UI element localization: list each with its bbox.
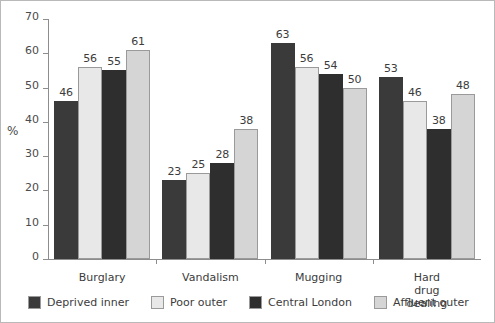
y-axis-tick-label: 70 — [25, 11, 39, 22]
bar-value-label: 23 — [167, 166, 181, 177]
bar-value-label: 53 — [384, 63, 398, 74]
bar[interactable]: 46 — [403, 101, 427, 259]
y-axis-tick-label: 10 — [25, 217, 39, 228]
bar-value-label: 28 — [215, 149, 229, 160]
legend-swatch-icon — [249, 296, 262, 309]
chart-legend: Deprived innerPoor outerCentral LondonAf… — [1, 296, 495, 309]
bar-slot: 38 — [234, 19, 258, 259]
legend-label: Deprived inner — [47, 297, 129, 308]
bar-slot: 48 — [451, 19, 475, 259]
bar[interactable]: 38 — [234, 129, 258, 259]
bar-value-label: 55 — [107, 56, 121, 67]
legend-item[interactable]: Central London — [249, 296, 352, 309]
legend-swatch-icon — [374, 296, 387, 309]
x-axis-group-tick — [265, 259, 266, 264]
legend-swatch-icon — [28, 296, 41, 309]
bar-slot: 23 — [162, 19, 186, 259]
bar-slot: 25 — [186, 19, 210, 259]
y-axis-tick-label: 60 — [25, 45, 39, 56]
bar-slot: 50 — [343, 19, 367, 259]
legend-swatch-icon — [151, 296, 164, 309]
x-axis-group-tick — [156, 259, 157, 264]
bar-slot: 56 — [295, 19, 319, 259]
bar-slot: 53 — [379, 19, 403, 259]
bar-slot: 63 — [271, 19, 295, 259]
bar[interactable]: 38 — [427, 129, 451, 259]
bar-slot: 46 — [54, 19, 78, 259]
bar-value-label: 56 — [83, 53, 97, 64]
bar[interactable]: 28 — [210, 163, 234, 259]
bar-value-label: 61 — [131, 36, 145, 47]
bar-slot: 61 — [126, 19, 150, 259]
bar-slot: 56 — [78, 19, 102, 259]
y-axis-tick-mark — [43, 259, 48, 260]
x-axis-category-label: Burglary — [79, 271, 126, 284]
legend-item[interactable]: Poor outer — [151, 296, 227, 309]
bar-value-label: 46 — [59, 87, 73, 98]
bar[interactable]: 48 — [451, 94, 475, 259]
bar-slot: 38 — [427, 19, 451, 259]
x-axis-category-label: Mugging — [295, 271, 342, 284]
bar[interactable]: 50 — [343, 88, 367, 259]
bar[interactable]: 23 — [162, 180, 186, 259]
y-axis-tick-label: 30 — [25, 148, 39, 159]
bar-slot: 55 — [102, 19, 126, 259]
bar[interactable]: 25 — [186, 173, 210, 259]
bar-value-label: 38 — [432, 115, 446, 126]
bar-value-label: 56 — [300, 53, 314, 64]
y-axis-title: % — [7, 125, 18, 137]
bar[interactable]: 46 — [54, 101, 78, 259]
bar-group-bars: 23252838 — [156, 19, 264, 259]
x-axis-group-tick — [373, 259, 374, 264]
bar-group-bars: 53463848 — [373, 19, 481, 259]
legend-label: Affluent outer — [393, 297, 469, 308]
bar-value-label: 63 — [276, 29, 290, 40]
bar[interactable]: 55 — [102, 70, 126, 259]
bar-group: 23252838Vandalism — [156, 19, 264, 259]
bar-value-label: 48 — [456, 80, 470, 91]
y-axis-tick-label: 50 — [25, 80, 39, 91]
legend-item[interactable]: Affluent outer — [374, 296, 469, 309]
bar-group: 53463848Hard drug dealing — [373, 19, 481, 259]
bar-groups: 46565561Burglary23252838Vandalism6356545… — [48, 19, 481, 259]
legend-item[interactable]: Deprived inner — [28, 296, 129, 309]
bar-group-bars: 63565450 — [265, 19, 373, 259]
bar-group-bars: 46565561 — [48, 19, 156, 259]
bar[interactable]: 56 — [295, 67, 319, 259]
bar-slot: 28 — [210, 19, 234, 259]
bar-value-label: 54 — [324, 60, 338, 71]
bar-chart-figure: % 010203040506070 46565561Burglary232528… — [0, 0, 495, 323]
bar-value-label: 25 — [191, 159, 205, 170]
y-axis-tick-label: 20 — [25, 182, 39, 193]
x-axis-category-label: Vandalism — [182, 271, 239, 284]
bar[interactable]: 54 — [319, 74, 343, 259]
bar[interactable]: 56 — [78, 67, 102, 259]
y-axis-tick-label: 40 — [25, 114, 39, 125]
bar-group: 46565561Burglary — [48, 19, 156, 259]
y-axis-tick-label: 0 — [32, 251, 39, 262]
bar-value-label: 38 — [239, 115, 253, 126]
bar[interactable]: 61 — [126, 50, 150, 259]
bar-value-label: 50 — [348, 74, 362, 85]
legend-label: Poor outer — [170, 297, 227, 308]
bar-group: 63565450Mugging — [265, 19, 373, 259]
bar-value-label: 46 — [408, 87, 422, 98]
bar[interactable]: 63 — [271, 43, 295, 259]
bar-slot: 54 — [319, 19, 343, 259]
bar-slot: 46 — [403, 19, 427, 259]
legend-label: Central London — [268, 297, 352, 308]
bar[interactable]: 53 — [379, 77, 403, 259]
